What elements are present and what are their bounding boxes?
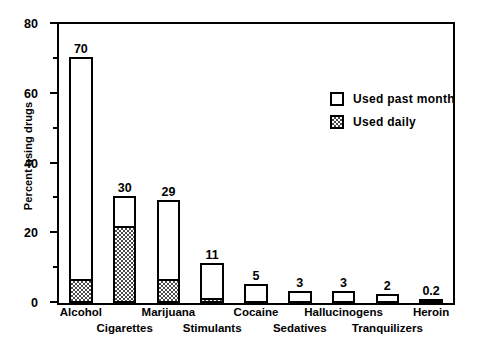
bar-daily-segment (202, 298, 222, 301)
bar-marijuana: 29Marijuana (157, 200, 181, 303)
bar-cigarettes: 30Cigarettes (113, 196, 137, 303)
x-axis-label-alcohol: Alcohol (60, 306, 102, 318)
y-axis-tick-minor (53, 196, 59, 198)
y-axis-tick-minor (53, 127, 59, 129)
bar-value-label: 5 (253, 269, 260, 283)
legend-item: Used past month (330, 92, 455, 106)
y-axis-tick-label: 20 (24, 226, 38, 240)
x-axis-label-tranquilizers: Tranquilizers (352, 322, 423, 334)
x-axis-label-sedatives: Sedatives (273, 322, 327, 334)
legend-item: Used daily (330, 115, 455, 129)
bar-value-label: 3 (340, 276, 347, 290)
legend-swatch-open (330, 92, 344, 106)
bar-daily-segment (159, 279, 179, 301)
bar-value-label: 3 (296, 276, 303, 290)
bar-value-label: 30 (118, 181, 132, 195)
bar-heroin: 0.2Heroin (419, 299, 443, 303)
y-axis-tick-label: 0 (31, 296, 38, 310)
bar-hallucinogens: 3Hallucinogens (332, 291, 356, 303)
bar-value-label: 2 (384, 279, 391, 293)
legend-label: Used daily (353, 115, 416, 129)
bar-alcohol: 70Alcohol (69, 57, 93, 303)
y-axis-tick-major: 80 (50, 22, 59, 24)
x-axis-label-marijuana: Marijuana (142, 306, 196, 318)
bar-value-label: 0.2 (422, 284, 439, 298)
y-axis-tick-major: 20 (50, 231, 59, 233)
legend-label: Used past month (353, 92, 455, 106)
plot-frame: 020406080 70Alcohol30Cigarettes29Marijua… (57, 22, 455, 305)
drug-use-bar-chart: Percent using drugs 020406080 70Alcohol3… (0, 0, 479, 354)
y-axis-tick-minor (53, 266, 59, 268)
bar-stimulants: 11Stimulants (200, 263, 224, 303)
bar-sedatives: 3Sedatives (288, 291, 312, 303)
plot-area: 020406080 70Alcohol30Cigarettes29Marijua… (59, 24, 453, 303)
y-axis-tick-major: 40 (50, 162, 59, 164)
x-axis-label-stimulants: Stimulants (183, 322, 242, 334)
bar-daily-segment (115, 226, 135, 301)
bar-cocaine: 5Cocaine (244, 284, 268, 303)
bar-value-label: 29 (161, 185, 175, 199)
y-axis-tick-minor (53, 57, 59, 59)
chart-legend: Used past monthUsed daily (330, 92, 455, 138)
bar-value-label: 70 (74, 42, 88, 56)
bar-value-label: 11 (206, 248, 219, 262)
x-axis-label-cigarettes: Cigarettes (97, 322, 153, 334)
y-axis-tick-label: 40 (24, 157, 38, 171)
y-axis-tick-label: 60 (24, 87, 38, 101)
bar-tranquilizers: 2Tranquilizers (376, 294, 400, 303)
y-axis-tick-label: 80 (24, 17, 38, 31)
x-axis-label-heroin: Heroin (413, 306, 449, 318)
y-axis-tick-major: 60 (50, 92, 59, 94)
bar-daily-segment (71, 279, 91, 301)
x-axis-label-cocaine: Cocaine (234, 306, 279, 318)
y-axis-tick-major: 0 (50, 301, 59, 303)
x-axis-label-hallucinogens: Hallucinogens (304, 306, 383, 318)
legend-swatch-hatched (330, 115, 344, 129)
